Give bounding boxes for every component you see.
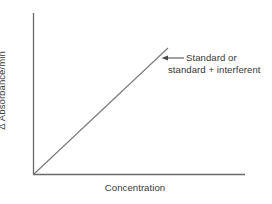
y-axis-label: Δ Absorbance/min xyxy=(0,51,7,130)
x-axis-label: Concentration xyxy=(105,182,165,193)
annotation-line-1: Standard or xyxy=(186,52,237,64)
x-axis-label-container: Concentration xyxy=(0,182,272,193)
annotation-line-2: standard + interferent xyxy=(168,64,261,76)
y-axis-label-container: Δ Absorbance/min xyxy=(0,0,34,180)
arrow-left-icon xyxy=(162,55,169,60)
calibration-plot-figure: Standard or standard + interferent Δ Abs… xyxy=(0,0,272,204)
data-line-standard xyxy=(34,48,168,174)
plot-canvas xyxy=(0,0,272,204)
